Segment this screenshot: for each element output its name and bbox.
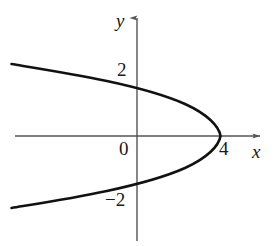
parabola-figure: y x 2 0 −2 4	[0, 0, 277, 246]
y-tick-label-negative-2: −2	[105, 190, 125, 209]
x-axis-label: x	[252, 142, 260, 161]
origin-label: 0	[119, 139, 129, 158]
coordinate-plot	[0, 0, 277, 246]
y-axis-label: y	[116, 11, 124, 30]
x-tick-label-4: 4	[219, 139, 229, 158]
y-tick-label-2: 2	[117, 60, 127, 79]
